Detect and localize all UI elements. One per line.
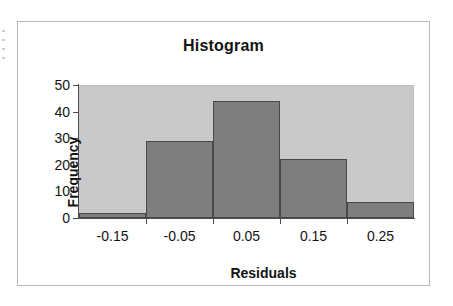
- bar: [213, 101, 280, 218]
- x-axis-line: [78, 218, 415, 219]
- scan-artifact-mark: [2, 39, 5, 41]
- scan-artifact-mark: [2, 30, 5, 32]
- bar: [79, 213, 146, 218]
- x-axis-tick-label: 0.05: [233, 228, 260, 244]
- scan-artifact-mark: [2, 48, 5, 50]
- scan-artifact-mark: [2, 57, 5, 59]
- y-axis-tick-label: 50: [54, 77, 70, 93]
- x-axis-tick: [280, 218, 281, 224]
- bar: [280, 159, 347, 218]
- x-axis-tick: [146, 218, 147, 224]
- y-axis-tick: [73, 218, 79, 219]
- bar-series: [79, 85, 414, 218]
- y-axis-tick-label: 40: [54, 104, 70, 120]
- x-axis-title: Residuals: [96, 265, 431, 281]
- y-axis-tick-label: 0: [62, 210, 70, 226]
- plot-area-wrapper: 01020304050 -0.15-0.050.050.150.25: [79, 85, 414, 218]
- x-axis-tick-label: 0.25: [367, 228, 394, 244]
- x-axis-tick-label: -0.15: [97, 228, 129, 244]
- x-axis-tick-label: -0.05: [164, 228, 196, 244]
- x-axis-tick: [347, 218, 348, 224]
- x-axis-tick-label: 0.15: [300, 228, 327, 244]
- scan-artifact-marks: [2, 30, 5, 85]
- x-axis-tick: [213, 218, 214, 224]
- bar: [347, 202, 414, 218]
- chart-frame: Histogram 01020304050 -0.15-0.050.050.15…: [17, 21, 430, 286]
- bar: [146, 141, 213, 218]
- y-axis-title: Frequency: [65, 137, 81, 208]
- chart-title: Histogram: [18, 37, 429, 55]
